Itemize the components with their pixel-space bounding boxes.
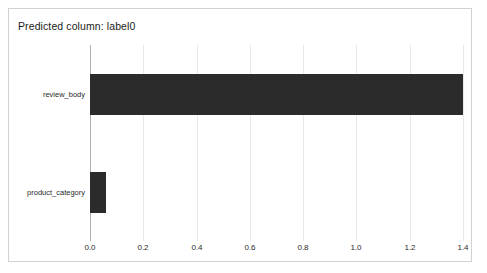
x-tick-label: 1.2 bbox=[404, 243, 415, 252]
y-axis-labels: review_bodyproduct_category bbox=[9, 45, 85, 241]
plot-area bbox=[90, 45, 463, 241]
bar bbox=[90, 74, 463, 115]
x-tick-label: 1.0 bbox=[350, 243, 361, 252]
y-tick-label: product_category bbox=[27, 188, 85, 197]
x-axis-labels: 0.00.20.40.60.81.01.21.4 bbox=[90, 243, 463, 259]
y-tick-label: review_body bbox=[43, 90, 85, 99]
x-tick-label: 0.8 bbox=[297, 243, 308, 252]
x-tick-label: 0.0 bbox=[84, 243, 95, 252]
x-tick-label: 1.4 bbox=[457, 243, 468, 252]
x-tick-label: 0.2 bbox=[137, 243, 148, 252]
x-tick-label: 0.4 bbox=[191, 243, 202, 252]
gridline bbox=[463, 45, 464, 241]
x-tick-label: 0.6 bbox=[244, 243, 255, 252]
page-title: Predicted column: label0 bbox=[18, 20, 135, 32]
chart-card: Predicted column: label0 review_bodyprod… bbox=[8, 8, 472, 262]
bar bbox=[90, 172, 106, 213]
